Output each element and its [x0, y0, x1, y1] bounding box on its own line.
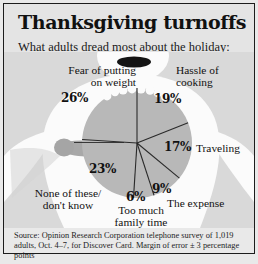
slice-value-none-of-these: 23% [89, 163, 116, 175]
source-note: Source: Opinion Research Corporation tel… [14, 231, 250, 262]
pie-tail-tip [54, 139, 74, 157]
header-block: Thanksgiving turnoffs What adults dread … [4, 4, 254, 56]
frame-border-right [254, 3, 255, 254]
page-title: Thanksgiving turnoffs [18, 11, 246, 33]
slice-label-fear-of-putting-on-weight: Fear of putting on weight [14, 64, 136, 88]
footer-block: Source: Opinion Research Corporation tel… [4, 228, 254, 253]
slice-label-traveling: Traveling [196, 142, 240, 154]
chart-canvas: Fear of putting on weight 26% Hassle of … [4, 52, 254, 228]
slice-value-traveling: 17% [164, 141, 191, 153]
slice-value-fear-of-putting-on-weight: 26% [61, 92, 88, 104]
slice-value-hassle-of-cooking: 19% [154, 93, 181, 105]
slice-label-none-of-these: None of these/ don't know [18, 187, 118, 211]
slice-value-the-expense: 9% [152, 183, 171, 195]
slice-label-hassle-of-cooking: Hassle of cooking [176, 64, 219, 88]
slice-value-too-much-family-time: 6% [126, 191, 145, 203]
infographic-panel: Thanksgiving turnoffs What adults dread … [0, 0, 258, 264]
